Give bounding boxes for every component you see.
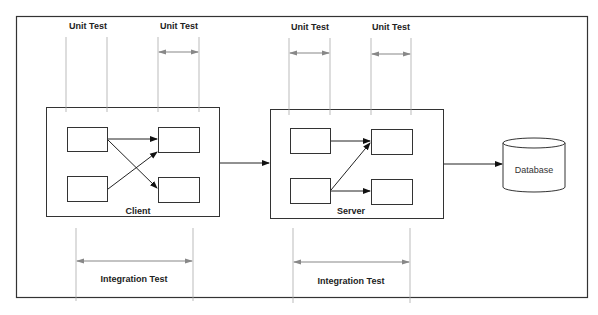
database-label: Database	[515, 165, 554, 175]
server-component: Server	[271, 109, 444, 219]
client-unit-d	[159, 178, 200, 203]
client-unit-b	[68, 177, 108, 202]
database-icon: Database	[503, 138, 565, 192]
client-component: Client	[47, 107, 220, 217]
unit-test-label: Unit Test	[160, 21, 198, 31]
server-unit-a	[291, 129, 331, 154]
server-unit-b	[291, 179, 331, 204]
test-scope-diagram: Unit Test Unit Test Unit Test Unit Test	[0, 0, 598, 315]
unit-test-label: Unit Test	[372, 22, 410, 32]
unit-test-label: Unit Test	[69, 21, 107, 31]
server-label: Server	[337, 206, 366, 216]
client-unit-c	[159, 128, 200, 153]
server-unit-c	[372, 130, 413, 155]
integration-test-client: Integration Test	[76, 228, 193, 301]
unit-test-client-left: Unit Test	[66, 21, 107, 112]
unit-test-server-right: Unit Test	[371, 22, 411, 115]
unit-test-server-left: Unit Test	[289, 22, 330, 115]
server-unit-d	[372, 180, 413, 205]
unit-test-label: Unit Test	[291, 22, 329, 32]
client-unit-a	[68, 128, 108, 152]
client-label: Client	[125, 206, 150, 216]
integration-test-label: Integration Test	[318, 276, 385, 286]
integration-test-server: Integration Test	[293, 228, 410, 303]
unit-test-client-right: Unit Test	[158, 21, 199, 112]
integration-test-label: Integration Test	[101, 274, 168, 284]
